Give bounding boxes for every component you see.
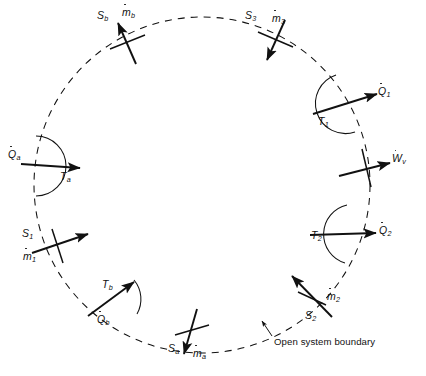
label-massflow-b: mb <box>122 7 135 19</box>
label-massflow-1: m1 <box>23 251 36 263</box>
label-massflow-a: ma <box>193 348 206 360</box>
label-entropy-a: Sa <box>168 343 179 355</box>
label-massflow-2: m2 <box>327 291 340 303</box>
diagram-canvas <box>0 0 426 376</box>
open-system-boundary-caption: Open system boundary <box>274 336 375 347</box>
label-temperature-b: Tb <box>102 279 113 291</box>
label-work-v: Wv <box>392 153 406 165</box>
label-entropy-1: S1 <box>22 228 33 240</box>
label-temperature-a: Ta <box>60 171 71 183</box>
stream-arrow-1 <box>32 234 88 253</box>
label-temperature-1: T1 <box>318 116 329 128</box>
temperature-arc-b <box>134 280 141 314</box>
label-entropy-b: Sb <box>97 10 108 22</box>
label-temperature-2: T2 <box>311 230 322 242</box>
work-arrow-v <box>339 163 390 176</box>
heat-arrow-a <box>21 164 80 168</box>
label-entropy-2: S2 <box>305 310 316 322</box>
boundary-caption-leader <box>262 321 272 336</box>
label-entropy-3: S3 <box>245 10 256 22</box>
label-heat-a: Qa <box>8 149 20 161</box>
label-heat-b: Qb <box>97 314 109 326</box>
open-system-diagram: Sb mb S3 m3 Q1 T1 Qa Ta Wv S1 m1 T2 Q2 <box>0 0 426 376</box>
stream-arrow-b <box>118 23 136 64</box>
stream-arrow-3 <box>267 20 285 60</box>
label-heat-2: Q2 <box>379 225 391 237</box>
stream-tick-2 <box>298 292 326 305</box>
label-massflow-3: m3 <box>272 13 285 25</box>
label-heat-1: Q1 <box>378 86 390 98</box>
